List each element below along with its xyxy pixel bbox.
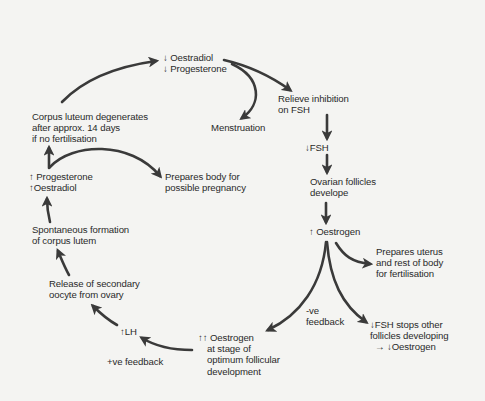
arrow-degenerates-to-oestradiol [62, 61, 156, 102]
node-text: ↑ Progesterone [29, 171, 93, 182]
node-fsh: ↓FSH [305, 142, 329, 153]
node-text: Prepares body for [165, 171, 246, 182]
node-prepares-body-pregnancy: Prepares body for possible pregnancy [165, 171, 246, 193]
node-peak-oestrogen: ↑↑ Oestrogen at stage of optimum follicu… [198, 332, 280, 377]
node-text: of corpus lutem [32, 235, 129, 246]
node-increase-lh: ↑LH [120, 326, 137, 337]
node-ovarian-follicles: Ovarian follicles develope [310, 176, 376, 198]
node-text: Release of secondary [49, 278, 140, 289]
node-text: Prepares uterus [376, 246, 443, 257]
arrow-spontaneous-to-progesterone [47, 199, 50, 222]
edge-label-text: -ve [306, 305, 344, 316]
node-increase-oestrogen: ↑ Oestrogen [309, 226, 360, 237]
node-text: and rest of body [376, 257, 443, 268]
arrow-oestradiol-to-menstruation [232, 64, 256, 118]
node-text: for fertilisation [376, 268, 443, 279]
node-text: optimum follicular [198, 354, 280, 365]
node-text: ↑LH [120, 326, 137, 337]
node-decrease-oestradiol-progesterone: ↓ Oestradiol ↓ Progesterone [163, 52, 227, 74]
node-text: oocyte from ovary [49, 289, 140, 300]
node-text: if no fertilisation [32, 133, 148, 144]
arrow-oestrogen-to-uterus [336, 243, 370, 264]
node-text: ↑↑ Oestrogen [198, 332, 280, 343]
node-text: ↓ Oestradiol [163, 52, 227, 63]
node-fsh-stops-follicles: ↓FSH stops other follicles developing → … [370, 319, 449, 353]
node-text: Relieve inhibition [278, 93, 349, 104]
node-text: at stage of [198, 343, 280, 354]
node-release-oocyte: Release of secondary oocyte from ovary [49, 278, 140, 300]
edge-label-text: +ve feedback [107, 356, 163, 367]
node-text: Spontaneous formation [32, 224, 129, 235]
node-text: on FSH [278, 104, 349, 115]
menstrual-cycle-diagram: ↓ Oestradiol ↓ Progesterone Relieve inhi… [0, 0, 485, 401]
node-text: development [198, 366, 280, 377]
node-menstruation: Menstruation [211, 122, 265, 133]
node-text: ↓FSH stops other [370, 319, 449, 330]
arrow-peak-to-lh [142, 338, 192, 350]
node-corpus-luteum-degenerates: Corpus luteum degenerates after approx. … [32, 111, 148, 145]
arrow-release-to-spontaneous [58, 251, 69, 275]
node-prepares-uterus: Prepares uterus and rest of body for fer… [376, 246, 443, 280]
node-text: ↑ Oestrogen [309, 226, 360, 237]
node-text: after approx. 14 days [32, 122, 148, 133]
node-text: ↓ Progesterone [163, 63, 227, 74]
node-text: possible pregnancy [165, 182, 246, 193]
node-text: ↑Oestradiol [29, 182, 93, 193]
node-text: Ovarian follicles [310, 176, 376, 187]
label-positive-feedback: +ve feedback [107, 356, 163, 367]
edge-label-text: feedback [306, 316, 344, 327]
node-text: follicles developing [370, 330, 449, 341]
node-text: → ↓Oestrogen [370, 341, 449, 352]
arrow-lh-to-release [93, 306, 117, 325]
node-text: develope [310, 187, 376, 198]
label-negative-feedback: -ve feedback [306, 305, 344, 327]
node-spontaneous-formation: Spontaneous formation of corpus lutem [32, 224, 129, 246]
node-increase-progesterone-oestradiol: ↑ Progesterone ↑Oestradiol [29, 171, 93, 193]
node-text: ↓FSH [305, 142, 329, 153]
node-text: Corpus luteum degenerates [32, 111, 148, 122]
node-relieve-inhibition: Relieve inhibition on FSH [278, 93, 349, 115]
node-text: Menstruation [211, 122, 265, 133]
